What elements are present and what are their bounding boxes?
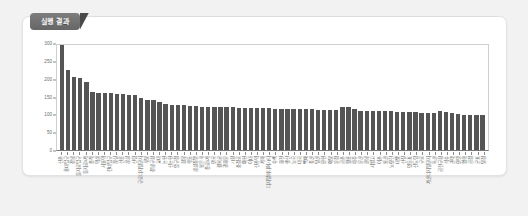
bar xyxy=(462,115,466,150)
result-tab[interactable]: 실행 결과 xyxy=(30,10,80,30)
x-axis-tick-mark xyxy=(159,152,160,155)
bar xyxy=(194,106,198,150)
bar xyxy=(231,107,235,150)
x-axis-tick-mark xyxy=(86,152,87,155)
bar xyxy=(358,111,362,150)
x-axis-tick: 당정 xyxy=(481,152,487,188)
bar xyxy=(316,110,320,150)
x-axis-tick-label: 문산 xyxy=(359,156,363,164)
bar xyxy=(377,111,381,150)
bar xyxy=(188,106,192,150)
x-axis-tick-label: 구로디지털단지 xyxy=(139,156,143,184)
x-axis-tick-mark xyxy=(257,152,258,155)
x-axis-tick-label: 압구정 xyxy=(175,156,179,168)
x-axis-tick-mark xyxy=(128,152,129,155)
bar xyxy=(90,92,94,150)
x-axis-tick-label: 이촌 xyxy=(377,156,381,164)
x-axis-tick-label: 서빙고 xyxy=(371,156,375,168)
x-axis-tick-label: 사당 xyxy=(145,156,149,164)
x-axis-tick-mark xyxy=(135,152,136,155)
bar xyxy=(206,107,210,151)
x-axis-tick-mark xyxy=(190,152,191,155)
x-axis-tick-label: 을지로입구 xyxy=(77,156,81,176)
bar xyxy=(261,108,265,150)
bar xyxy=(72,77,76,150)
x-axis-tick-label: 당정 xyxy=(482,156,486,164)
x-axis-tick-mark xyxy=(184,152,185,155)
x-axis-tick-mark xyxy=(484,152,485,155)
bar xyxy=(291,109,295,150)
x-axis-tick-mark xyxy=(337,152,338,155)
plot-area xyxy=(56,44,489,151)
bar xyxy=(103,93,107,150)
x-axis-tick-mark xyxy=(165,152,166,155)
x-axis-tick-label: 영등포 xyxy=(408,156,412,168)
x-axis-tick-label: 역삼 xyxy=(96,156,100,164)
x-axis-tick-label: 금천구청 xyxy=(439,156,443,172)
result-tab-label: 실행 결과 xyxy=(41,16,69,26)
x-axis-tick-label: 탄현 xyxy=(322,156,326,164)
x-axis-tick-label: 화전 xyxy=(279,156,283,164)
x-axis-tick-mark xyxy=(141,152,142,155)
x-axis-tick-mark xyxy=(269,152,270,155)
x-axis-tick-label: 논현 xyxy=(163,156,167,164)
result-tab-body[interactable]: 실행 결과 xyxy=(30,13,80,30)
x-axis-tick-label: 백마 xyxy=(304,156,308,164)
x-axis-tick-label: 명학 xyxy=(463,156,467,164)
bar xyxy=(444,112,448,150)
bar xyxy=(346,107,350,150)
bar xyxy=(413,112,417,150)
x-axis-tick-mark xyxy=(410,152,411,155)
bar xyxy=(267,108,271,150)
x-axis-tick-label: 노량진 xyxy=(390,156,394,168)
x-axis-tick-mark xyxy=(429,152,430,155)
x-axis-tick-mark xyxy=(318,152,319,155)
x-axis-tick-mark xyxy=(79,152,80,155)
bar xyxy=(224,107,228,150)
x-axis: 신촌홍대입구강남을지로입구을지로3가종각역삼서울역건대입구잠실선릉삼성신림구로디… xyxy=(56,152,489,188)
bar xyxy=(96,93,100,150)
x-axis-tick-mark xyxy=(306,152,307,155)
x-axis-tick-label: 관악 xyxy=(451,156,455,164)
x-axis-tick-label: 청담 xyxy=(181,156,185,164)
x-axis-tick-mark xyxy=(73,152,74,155)
x-axis-tick-mark xyxy=(441,152,442,155)
bar xyxy=(383,111,387,150)
x-axis-tick-label: 충정로 xyxy=(237,156,241,168)
x-axis-tick-label: 아현 xyxy=(243,156,247,164)
bar xyxy=(139,98,143,150)
bar xyxy=(334,110,338,150)
x-axis-tick-mark xyxy=(245,152,246,155)
x-axis-tick-label: 금정 xyxy=(469,156,473,164)
x-axis-tick-mark xyxy=(202,152,203,155)
x-axis-tick-mark xyxy=(300,152,301,155)
x-axis-tick-label: 신촌 xyxy=(59,156,63,164)
x-axis-tick-mark xyxy=(324,152,325,155)
x-axis-tick-mark xyxy=(459,152,460,155)
x-axis-tick-mark xyxy=(367,152,368,155)
x-axis-tick-mark xyxy=(208,152,209,155)
x-axis-tick-label: 용산 xyxy=(384,156,388,164)
x-axis-tick-label: 독산 xyxy=(433,156,437,164)
x-axis-tick-label: 수색 xyxy=(273,156,277,164)
bar xyxy=(456,114,460,150)
bar xyxy=(115,94,119,150)
x-axis-tick-mark xyxy=(153,152,154,155)
bar xyxy=(426,113,430,150)
bar xyxy=(279,109,283,150)
x-axis-tick-label: 학동 xyxy=(188,156,192,164)
bar-chart: 050100150200250300 신촌홍대입구강남을지로입구을지로3가종각역… xyxy=(34,44,489,164)
x-axis-tick-mark xyxy=(349,152,350,155)
x-axis-tick-label: 시청 xyxy=(230,156,234,164)
bar xyxy=(60,45,64,150)
bar xyxy=(170,105,174,150)
x-axis-tick-label: 대곡 xyxy=(298,156,302,164)
x-axis-tick-label: 서울역 xyxy=(102,156,106,168)
bar xyxy=(322,110,326,150)
bar xyxy=(66,70,70,150)
x-axis-tick-label: 석수 xyxy=(445,156,449,164)
bar xyxy=(310,109,314,150)
bar xyxy=(109,93,113,150)
bar xyxy=(474,115,478,150)
bar xyxy=(352,109,356,150)
